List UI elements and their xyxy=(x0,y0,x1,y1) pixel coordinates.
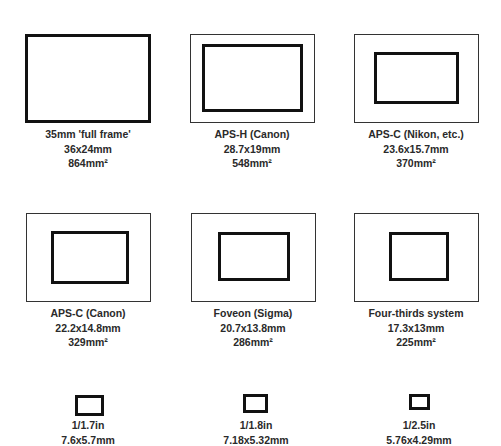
sensor-area: 286mm² xyxy=(173,335,333,350)
sensor-dims: 20.7x13.8mm xyxy=(173,321,333,336)
sensor-name: 35mm 'full frame' xyxy=(8,127,168,142)
sensor-area: 329mm² xyxy=(8,335,168,350)
sensor-foveon xyxy=(218,232,290,281)
sensor-aps-h xyxy=(202,44,303,112)
sensor-full-frame xyxy=(25,34,151,123)
sensor-name: APS-H (Canon) xyxy=(172,127,332,142)
label-1-1.7in: 1/1.7in 7.6x5.7mm xyxy=(8,418,168,446)
sensor-name: APS-C (Canon) xyxy=(8,306,168,321)
sensor-name: 1/1.7in xyxy=(8,418,168,433)
sensor-area: 225mm² xyxy=(336,335,496,350)
sensor-1-1.7in xyxy=(75,395,104,416)
sensor-dims: 36x24mm xyxy=(8,142,168,157)
sensor-dims: 7.6x5.7mm xyxy=(8,433,168,446)
sensor-name: 1/1.8in xyxy=(176,418,336,433)
sensor-area: 548mm² xyxy=(172,156,332,171)
label-aps-c-canon: APS-C (Canon) 22.2x14.8mm 329mm² xyxy=(8,306,168,350)
sensor-dims: 17.3x13mm xyxy=(336,321,496,336)
sensor-name: Foveon (Sigma) xyxy=(173,306,333,321)
sensor-1-1.8in xyxy=(243,394,268,413)
sensor-dims: 23.6x15.7mm xyxy=(336,142,496,157)
sensor-1-2.5in xyxy=(409,394,430,410)
label-four-thirds: Four-thirds system 17.3x13mm 225mm² xyxy=(336,306,496,350)
sensor-dims: 5.76x4.29mm xyxy=(339,433,499,446)
label-aps-c-nikon: APS-C (Nikon, etc.) 23.6x15.7mm 370mm² xyxy=(336,127,496,171)
sensor-dims: 7.18x5.32mm xyxy=(176,433,336,446)
sensor-name: APS-C (Nikon, etc.) xyxy=(336,127,496,142)
sensor-dims: 28.7x19mm xyxy=(172,142,332,157)
sensor-aps-c-canon xyxy=(51,231,129,284)
label-1-1.8in: 1/1.8in 7.18x5.32mm xyxy=(176,418,336,446)
label-1-2.5in: 1/2.5in 5.76x4.29mm xyxy=(339,418,499,446)
sensor-name: Four-thirds system xyxy=(336,306,496,321)
sensor-four-thirds xyxy=(389,232,449,281)
label-aps-h: APS-H (Canon) 28.7x19mm 548mm² xyxy=(172,127,332,171)
sensor-area: 864mm² xyxy=(8,156,168,171)
label-full-frame: 35mm 'full frame' 36x24mm 864mm² xyxy=(8,127,168,171)
sensor-area: 370mm² xyxy=(336,156,496,171)
sensor-name: 1/2.5in xyxy=(339,418,499,433)
sensor-aps-c-nikon xyxy=(374,52,459,104)
sensor-dims: 22.2x14.8mm xyxy=(8,321,168,336)
label-foveon: Foveon (Sigma) 20.7x13.8mm 286mm² xyxy=(173,306,333,350)
